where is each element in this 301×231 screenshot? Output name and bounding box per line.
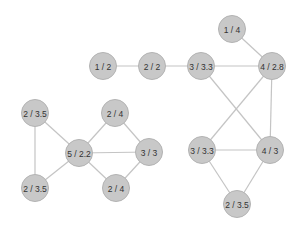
graph-node: 1 / 2 — [90, 53, 117, 80]
node-label: 1 / 4 — [224, 25, 241, 35]
graph-node: 3 / 3.3 — [189, 137, 216, 164]
graph-node: 2 / 4 — [102, 100, 129, 127]
graph-node: 2 / 3.5 — [22, 100, 49, 127]
node-label: 3 / 3 — [141, 148, 158, 158]
node-label: 5 / 2.2 — [67, 149, 91, 159]
node-label: 2 / 3.5 — [225, 200, 249, 210]
graph-node: 4 / 3 — [257, 137, 284, 164]
node-label: 2 / 2 — [144, 62, 161, 72]
node-label: 3 / 3.3 — [190, 146, 214, 156]
graph-node: 3 / 3 — [136, 139, 163, 166]
graph-node: 4 / 2.8 — [259, 53, 286, 80]
graph-node: 2 / 3.5 — [224, 191, 251, 218]
node-label: 2 / 3.5 — [23, 109, 47, 119]
node-label: 2 / 4 — [107, 109, 124, 119]
node-label: 3 / 3.3 — [189, 62, 213, 72]
nodes-layer: 1 / 22 / 23 / 3.34 / 2.81 / 43 / 3.34 / … — [22, 16, 286, 218]
edge-a3-b2 — [201, 66, 270, 150]
node-label: 1 / 2 — [95, 62, 112, 72]
node-label: 4 / 2.8 — [260, 62, 284, 72]
graph-node: 5 / 2.2 — [66, 140, 93, 167]
edge-a4-b1 — [202, 66, 272, 150]
graph-node: 3 / 3.3 — [188, 53, 215, 80]
node-label: 2 / 4 — [108, 184, 125, 194]
graph-node: 2 / 4 — [103, 175, 130, 202]
graph-node: 1 / 4 — [219, 16, 246, 43]
node-label: 4 / 3 — [262, 146, 279, 156]
graph-node: 2 / 3.5 — [22, 175, 49, 202]
graph-diagram: 1 / 22 / 23 / 3.34 / 2.81 / 43 / 3.34 / … — [0, 0, 301, 231]
node-label: 2 / 3.5 — [23, 184, 47, 194]
graph-node: 2 / 2 — [139, 53, 166, 80]
